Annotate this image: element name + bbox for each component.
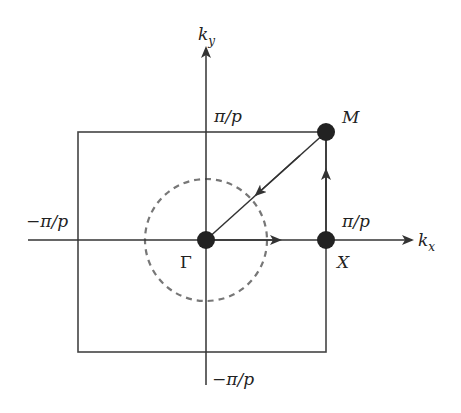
ky-positive-tick-label: π/p [213, 106, 242, 126]
m-point-label: M [341, 107, 360, 127]
x-point-label: X [335, 252, 350, 272]
ky-negative-tick-label: −π/p [212, 369, 254, 389]
kx-positive-tick-label: π/p [341, 211, 370, 231]
ky-axis-label: ky [198, 24, 215, 48]
kx-negative-tick-label: −π/p [26, 211, 68, 231]
brillouin-zone-diagram: ky kx π/p −π/p π/p −π/p Γ X M [0, 0, 461, 413]
path-m-to-gamma-arrow [256, 155, 300, 195]
x-point-marker [317, 231, 335, 249]
gamma-point-marker [197, 231, 215, 249]
m-point-marker [317, 123, 335, 141]
kx-axis-label: kx [418, 230, 435, 254]
gamma-point-label: Γ [180, 252, 192, 272]
